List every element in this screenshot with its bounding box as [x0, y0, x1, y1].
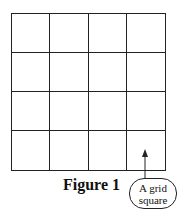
callout-line-1: A grid [130, 182, 176, 194]
callout-line-2: square [130, 194, 176, 206]
callout-bubble: A grid square [129, 178, 177, 209]
figure-caption: Figure 1 [63, 176, 120, 194]
